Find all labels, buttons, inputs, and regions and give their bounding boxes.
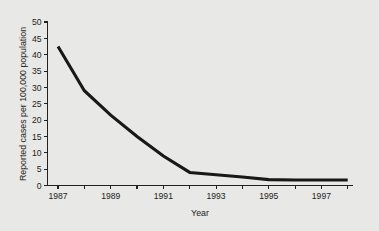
y-tick-label-5: 5 [37,164,42,174]
x-tick-label-1987: 1987 [48,191,67,201]
line-chart: 05101520253035404550 1987198919911993199… [0,0,379,231]
y-tick-label-45: 45 [32,34,42,44]
y-tick-label-40: 40 [32,50,42,60]
x-axis-ticks: 198719891991199319951997 [48,186,347,202]
axis-spines [48,22,354,186]
y-tick-label-30: 30 [32,83,42,93]
x-axis-title: Year [191,208,209,218]
y-axis-title: Reported cases per 100,000 population [18,27,28,181]
y-tick-label-20: 20 [32,115,42,125]
x-tick-label-1989: 1989 [101,191,120,201]
chart-screenshot: 05101520253035404550 1987198919911993199… [0,0,379,231]
x-tick-label-1993: 1993 [206,191,225,201]
x-tick-label-1991: 1991 [154,191,173,201]
y-tick-label-50: 50 [32,17,42,27]
y-tick-label-25: 25 [32,99,42,109]
x-tick-label-1997: 1997 [312,191,331,201]
data-series-line [58,47,348,180]
y-tick-label-35: 35 [32,66,42,76]
y-tick-label-10: 10 [32,148,42,158]
y-axis-ticks: 05101520253035404550 [32,17,48,191]
y-tick-label-0: 0 [37,181,42,191]
y-tick-label-15: 15 [32,132,42,142]
x-tick-label-1995: 1995 [259,191,278,201]
